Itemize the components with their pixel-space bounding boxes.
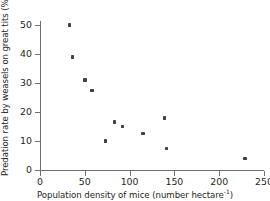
data-point — [90, 89, 93, 92]
y-tick-label: 10 — [4, 136, 32, 146]
data-point — [121, 125, 124, 128]
x-axis-label-main: Population density of mice (number hecta… — [37, 190, 224, 200]
data-point — [165, 147, 168, 150]
plot-area — [40, 25, 264, 170]
x-tick-label: 250 — [244, 177, 270, 187]
x-tick-label: 100 — [110, 177, 150, 187]
x-tick-label: 150 — [154, 177, 194, 187]
data-point — [71, 55, 74, 58]
scatter-chart-figure: Predation rate by weasels on great tits … — [0, 0, 270, 201]
data-point — [83, 78, 86, 81]
x-axis-label-tail: ) — [230, 190, 233, 200]
y-tick-label: 30 — [4, 78, 32, 88]
x-tick-label: 0 — [20, 177, 60, 187]
data-point — [113, 120, 116, 123]
y-tick-label: 50 — [4, 20, 32, 30]
data-point — [104, 139, 107, 142]
data-point — [141, 132, 144, 135]
x-axis-line — [40, 170, 264, 171]
y-tick-label: 0 — [4, 165, 32, 175]
x-tick-label: 200 — [199, 177, 239, 187]
data-point — [243, 157, 246, 160]
x-axis-label: Population density of mice (number hecta… — [0, 188, 270, 200]
y-tick-label: 40 — [4, 49, 32, 59]
y-tick-label: 20 — [4, 107, 32, 117]
data-point — [68, 23, 71, 26]
x-tick-label: 50 — [65, 177, 105, 187]
